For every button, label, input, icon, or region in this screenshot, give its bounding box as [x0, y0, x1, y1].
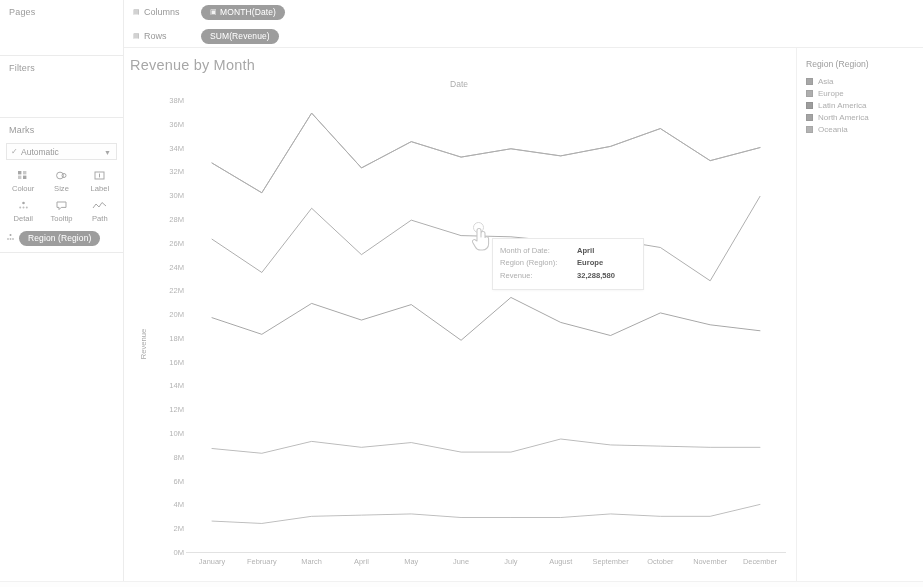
- cursor-pointer-icon: [468, 224, 494, 254]
- legend-item[interactable]: Latin America: [806, 99, 923, 111]
- tooltip-row: Revenue: 32,288,580: [500, 270, 636, 282]
- y-axis-tick: 8M: [173, 452, 184, 461]
- legend-swatch: [806, 114, 813, 121]
- x-axis-tick: December: [743, 557, 777, 566]
- columns-shelf-dropzone[interactable]: ▣ MONTH(Date): [201, 5, 285, 20]
- legend-items: AsiaEuropeLatin AmericaNorth AmericaOcea…: [806, 75, 923, 135]
- y-axis-ticks: 38M36M34M32M30M28M26M24M22M20M18M16M14M1…: [138, 100, 184, 552]
- y-axis-tick: 28M: [169, 214, 184, 223]
- columns-pill-month-date[interactable]: ▣ MONTH(Date): [201, 5, 285, 20]
- tooltip-key: Revenue:: [500, 270, 572, 282]
- lines-svg: [186, 100, 786, 552]
- y-axis-tick: 18M: [169, 333, 184, 342]
- marks-button-tooltip-label: Tooltip: [51, 214, 73, 223]
- rows-pill-sum-revenue[interactable]: SUM(Revenue): [201, 29, 279, 44]
- path-icon: [92, 199, 107, 212]
- marks-region-pill-label: Region (Region): [28, 233, 91, 243]
- marks-button-detail[interactable]: Detail: [4, 196, 42, 226]
- y-axis-tick: 2M: [173, 524, 184, 533]
- y-axis-tick: 32M: [169, 167, 184, 176]
- x-axis-ticks: JanuaryFebruaryMarchAprilMayJuneJulyAugu…: [186, 555, 786, 577]
- marks-button-path[interactable]: Path: [81, 196, 119, 226]
- pages-card[interactable]: Pages: [0, 0, 123, 56]
- marks-buttons-grid: Colour Size: [0, 164, 123, 228]
- series-line[interactable]: [212, 504, 760, 523]
- series-line[interactable]: [212, 439, 760, 453]
- label-icon: [92, 169, 107, 182]
- tooltip-value: April: [577, 245, 594, 257]
- data-tooltip: Month of Date: April Region (Region): Eu…: [492, 238, 644, 290]
- x-axis-tick: April: [354, 557, 369, 566]
- check-icon: ✓: [11, 147, 18, 156]
- rows-shelf-dropzone[interactable]: SUM(Revenue): [201, 29, 279, 44]
- tooltip-key: Region (Region):: [500, 257, 572, 269]
- tooltip-value: 32,288,580: [577, 270, 615, 282]
- marks-button-tooltip[interactable]: Tooltip: [42, 196, 80, 226]
- plot-wrapper: Revenue 38M36M34M32M30M28M26M24M22M20M18…: [124, 100, 794, 587]
- legend-item[interactable]: Asia: [806, 75, 923, 87]
- y-axis-tick: 20M: [169, 310, 184, 319]
- tableau-worksheet: Pages Filters Marks ✓ Automatic ▼: [0, 0, 923, 587]
- x-axis-tick: March: [301, 557, 322, 566]
- legend-swatch: [806, 102, 813, 109]
- rows-shelf[interactable]: ▤ Rows SUM(Revenue): [124, 24, 923, 48]
- marks-button-size[interactable]: Size: [42, 166, 80, 196]
- plot-area[interactable]: [186, 100, 786, 552]
- marks-button-detail-label: Detail: [13, 214, 32, 223]
- legend-item[interactable]: Oceania: [806, 123, 923, 135]
- rows-shelf-label: Rows: [144, 31, 167, 41]
- x-axis-tick: October: [647, 557, 673, 566]
- x-axis-tick: May: [404, 557, 418, 566]
- viz-title: Revenue by Month: [124, 48, 794, 73]
- colour-icon: [16, 169, 31, 182]
- filters-card[interactable]: Filters: [0, 56, 123, 118]
- x-axis-tick: June: [453, 557, 469, 566]
- shelf-icon: ▤: [133, 8, 140, 16]
- marks-button-label-label: Label: [91, 184, 110, 193]
- y-axis-tick: 26M: [169, 238, 184, 247]
- y-axis-tick: 30M: [169, 191, 184, 200]
- tooltip-key: Month of Date:: [500, 245, 572, 257]
- marks-button-size-label: Size: [54, 184, 69, 193]
- tooltip-icon: [54, 199, 69, 212]
- marks-region-pill[interactable]: Region (Region): [19, 231, 100, 246]
- marks-button-label[interactable]: Label: [81, 166, 119, 196]
- marks-button-colour[interactable]: Colour: [4, 166, 42, 196]
- series-line[interactable]: [212, 113, 760, 193]
- legend-swatch: [806, 90, 813, 97]
- marks-type-selector[interactable]: ✓ Automatic ▼: [6, 143, 117, 160]
- tooltip-value: Europe: [577, 257, 603, 269]
- legend-title: Region (Region): [806, 59, 923, 69]
- y-axis-tick: 12M: [169, 405, 184, 414]
- x-axis-tick: July: [504, 557, 517, 566]
- viz-canvas[interactable]: Revenue by Month Date Revenue 38M36M34M3…: [124, 48, 794, 587]
- x-axis-tick: September: [592, 557, 628, 566]
- y-axis-tick: 10M: [169, 429, 184, 438]
- y-axis-tick: 38M: [169, 96, 184, 105]
- legend-item[interactable]: Europe: [806, 87, 923, 99]
- detail-icon: [16, 199, 31, 212]
- marks-type-label: Automatic: [21, 147, 59, 157]
- calendar-icon: ▣: [210, 8, 217, 16]
- columns-shelf-label: Columns: [144, 7, 180, 17]
- column-header-date: Date: [124, 79, 794, 89]
- left-panel: Pages Filters Marks ✓ Automatic ▼: [0, 0, 124, 587]
- legend-swatch: [806, 78, 813, 85]
- filters-card-title: Filters: [0, 56, 123, 77]
- legend-swatch: [806, 126, 813, 133]
- tooltip-row: Region (Region): Europe: [500, 257, 636, 269]
- shelves-area: ▤ Columns ▣ MONTH(Date) ▤ Rows SUM(Reven…: [124, 0, 923, 48]
- y-axis-tick: 34M: [169, 143, 184, 152]
- legend-item-label: North America: [818, 113, 869, 122]
- series-line[interactable]: [212, 297, 760, 340]
- y-axis-tick: 0M: [173, 548, 184, 557]
- chevron-down-icon[interactable]: ▼: [104, 148, 111, 155]
- marks-button-colour-label: Colour: [12, 184, 34, 193]
- y-axis-tick: 22M: [169, 286, 184, 295]
- columns-shelf[interactable]: ▤ Columns ▣ MONTH(Date): [124, 0, 923, 24]
- rows-pill-label: SUM(Revenue): [210, 31, 270, 41]
- legend-item[interactable]: North America: [806, 111, 923, 123]
- x-axis-tick: November: [693, 557, 727, 566]
- y-axis-tick: 16M: [169, 357, 184, 366]
- bottom-strip: [0, 581, 923, 587]
